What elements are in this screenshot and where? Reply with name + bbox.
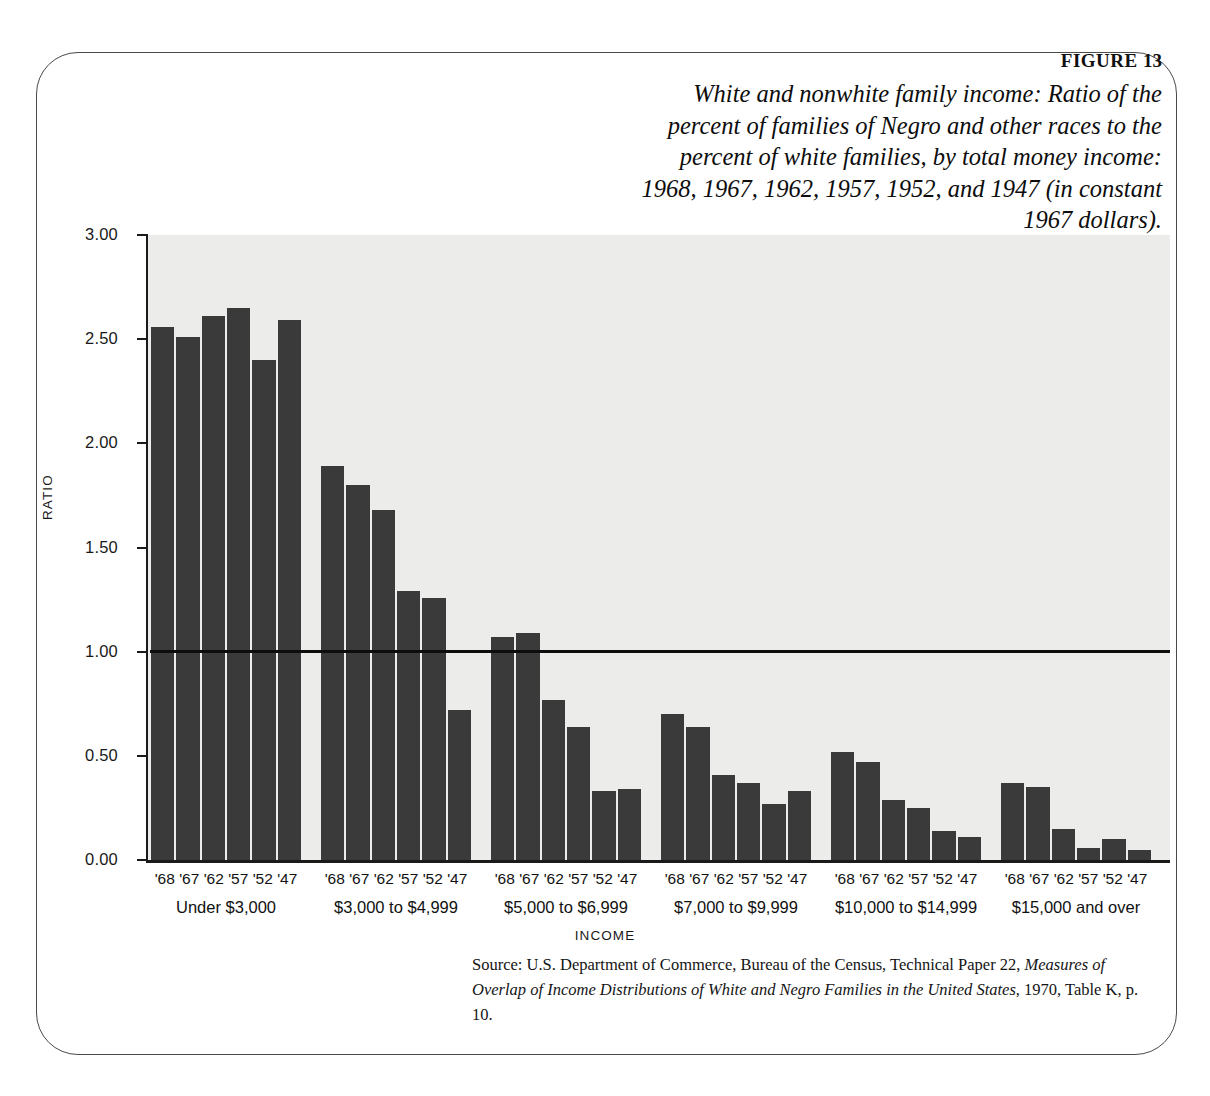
bar — [566, 727, 591, 860]
bar — [175, 337, 200, 860]
bar — [787, 791, 812, 860]
y-axis-title: RATIO — [40, 474, 55, 520]
bar — [251, 360, 276, 860]
reference-line-segment — [311, 650, 481, 653]
y-axis-tick-label: 1.50 — [58, 538, 118, 557]
y-axis-line — [146, 235, 148, 862]
bar — [685, 727, 710, 860]
x-axis-title: INCOME — [0, 928, 1210, 943]
bar — [830, 752, 855, 860]
bar — [736, 783, 761, 860]
x-axis-year-labels: '68 '67 '62 '57 '52 '47 — [1000, 870, 1152, 888]
bar — [490, 637, 515, 860]
bar — [1127, 850, 1152, 860]
y-axis-tick-label: 1.00 — [58, 642, 118, 661]
bar — [957, 837, 982, 860]
y-axis-tick — [137, 755, 148, 757]
bar — [617, 789, 642, 860]
bar — [1000, 783, 1025, 860]
y-axis-tick — [137, 234, 148, 236]
bar — [396, 591, 421, 860]
reference-line-segment — [821, 650, 991, 653]
bar — [1076, 848, 1101, 861]
bar — [447, 710, 472, 860]
chart-bars-layer — [148, 235, 1170, 860]
bar — [150, 327, 175, 860]
bar — [660, 714, 685, 860]
y-axis-tick-label: 0.50 — [58, 746, 118, 765]
bar — [345, 485, 370, 860]
reference-line-segment — [651, 650, 821, 653]
figure-source-citation: Source: U.S. Department of Commerce, Bur… — [472, 952, 1162, 1027]
reference-line-segment — [991, 650, 1170, 653]
x-axis-year-labels: '68 '67 '62 '57 '52 '47 — [320, 870, 472, 888]
bar — [1025, 787, 1050, 860]
source-prefix: Source: U.S. Department of Commerce, Bur… — [472, 955, 1025, 974]
y-axis-tick-label: 2.00 — [58, 433, 118, 452]
figure-title: White and nonwhite family income: Ratio … — [632, 78, 1162, 236]
y-axis-tick — [137, 442, 148, 444]
y-axis-tick-label: 3.00 — [58, 225, 118, 244]
y-axis-tick-label: 2.50 — [58, 329, 118, 348]
bar — [320, 466, 345, 860]
figure-label-number: 13 — [1143, 50, 1162, 71]
x-axis-year-labels: '68 '67 '62 '57 '52 '47 — [830, 870, 982, 888]
x-axis-year-labels: '68 '67 '62 '57 '52 '47 — [150, 870, 302, 888]
y-axis-tick — [137, 547, 148, 549]
y-axis-tick — [137, 651, 148, 653]
bar — [711, 775, 736, 860]
bar — [591, 791, 616, 860]
bar — [881, 800, 906, 860]
x-axis-group-label: $15,000 and over — [966, 898, 1186, 917]
bar — [931, 831, 956, 860]
reference-line-segment — [481, 650, 651, 653]
bar — [226, 308, 251, 860]
bar — [277, 320, 302, 860]
bar — [541, 700, 566, 860]
chart-plot-area — [148, 235, 1170, 860]
bar — [515, 633, 540, 860]
y-axis-tick — [137, 859, 148, 861]
x-axis-year-labels: '68 '67 '62 '57 '52 '47 — [660, 870, 812, 888]
bar — [201, 316, 226, 860]
figure-label-prefix: FIGURE — [1061, 50, 1138, 71]
bar — [371, 510, 396, 860]
y-axis-tick — [137, 338, 148, 340]
bar — [761, 804, 786, 860]
figure-label: FIGURE 13 — [1061, 50, 1162, 72]
bar — [1101, 839, 1126, 860]
bar — [421, 598, 446, 861]
x-axis-year-labels: '68 '67 '62 '57 '52 '47 — [490, 870, 642, 888]
bar — [1051, 829, 1076, 860]
y-axis-tick-label: 0.00 — [58, 850, 118, 869]
x-axis-line — [146, 860, 1170, 863]
reference-line-segment — [150, 650, 311, 653]
bar — [906, 808, 931, 860]
bar — [855, 762, 880, 860]
